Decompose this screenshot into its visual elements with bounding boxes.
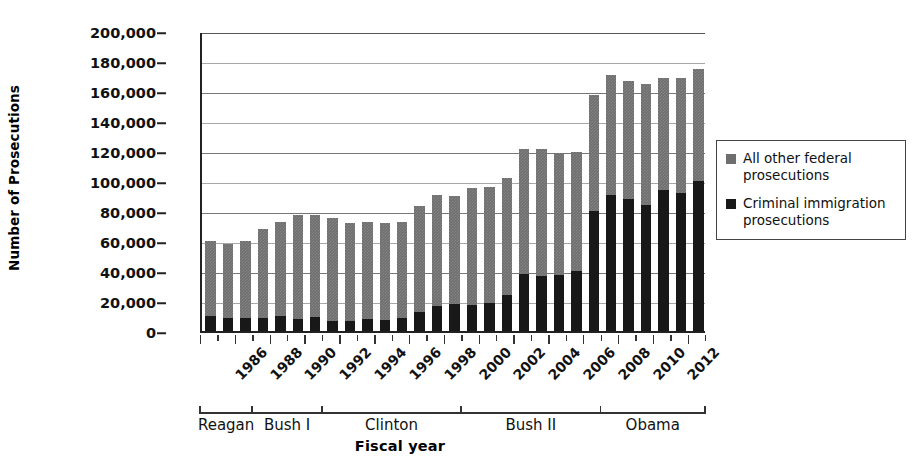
bar-segment-criminal-immigration xyxy=(258,318,268,332)
bar-segment-all-other-federal xyxy=(449,196,459,304)
y-axis-tick-label: 200,000 xyxy=(90,25,156,41)
x-axis-tick-mark xyxy=(374,335,375,344)
x-axis-tick-mark xyxy=(531,335,532,341)
bar-1998 xyxy=(414,206,424,331)
bar-2001 xyxy=(467,188,477,331)
x-axis-tick-label: 1986 xyxy=(232,344,271,383)
x-axis-title: Fiscal year xyxy=(0,438,918,454)
bar-1994 xyxy=(345,223,355,331)
y-axis-tick-labels: 020,00040,00060,00080,000100,000120,0001… xyxy=(26,24,166,344)
bar-2012 xyxy=(658,78,668,331)
bar-1992 xyxy=(310,215,320,331)
president-label-obama: Obama xyxy=(626,416,680,434)
bar-segment-criminal-immigration xyxy=(449,304,459,331)
bar-2002 xyxy=(484,187,494,331)
legend-swatch-black-icon xyxy=(726,199,736,209)
x-axis-tick-mark xyxy=(304,335,305,344)
bar-segment-all-other-federal xyxy=(676,78,686,194)
x-axis-tick-mark xyxy=(409,335,410,344)
x-axis-tick-mark xyxy=(392,335,393,341)
y-axis-tick-mark xyxy=(157,332,166,334)
bar-segment-all-other-federal xyxy=(589,95,599,211)
legend-label: All other federal prosecutions xyxy=(743,150,897,185)
bar-segment-all-other-federal xyxy=(414,206,424,313)
legend: All other federal prosecutions Criminal … xyxy=(716,140,906,240)
x-axis-tick-mark xyxy=(635,335,636,341)
x-axis-tick-mark xyxy=(513,335,514,344)
bar-segment-criminal-immigration xyxy=(484,303,494,331)
x-axis-tick-mark xyxy=(601,335,602,341)
bar-segment-criminal-immigration xyxy=(223,318,233,331)
y-axis-tick-label: 180,000 xyxy=(90,55,156,71)
y-axis-tick-label: 60,000 xyxy=(100,235,156,251)
bar-segment-criminal-immigration xyxy=(397,318,407,331)
president-bracket-line xyxy=(200,412,252,414)
president-bracket-line xyxy=(322,412,461,414)
y-axis-tick-mark xyxy=(157,122,166,124)
president-labels: ReaganBush IClintonBush IIObama xyxy=(150,416,770,438)
bar-2003 xyxy=(502,178,512,331)
x-axis-tick-mark xyxy=(426,335,427,341)
y-axis-tick-label: 80,000 xyxy=(100,205,156,221)
x-axis-tick-label: 1990 xyxy=(301,344,340,383)
legend-label: Criminal immigration prosecutions xyxy=(743,195,897,230)
legend-item-criminal-immigration: Criminal immigration prosecutions xyxy=(726,195,897,230)
x-axis-tick-mark xyxy=(583,335,584,344)
bar-segment-all-other-federal xyxy=(362,222,372,319)
x-axis-tick-label: 2002 xyxy=(510,344,549,383)
bar-1996 xyxy=(380,223,390,331)
y-axis-tick-mark xyxy=(157,62,166,64)
bar-2014 xyxy=(693,69,703,332)
bar-segment-all-other-federal xyxy=(554,153,564,275)
bar-series-group xyxy=(202,33,705,331)
president-bracket-line xyxy=(252,412,322,414)
bar-2005 xyxy=(536,149,546,331)
bar-1988 xyxy=(240,241,250,331)
bar-2004 xyxy=(519,149,529,331)
bar-segment-all-other-federal xyxy=(432,195,442,306)
bar-segment-criminal-immigration xyxy=(536,276,546,332)
bar-segment-criminal-immigration xyxy=(623,199,633,331)
bar-segment-criminal-immigration xyxy=(380,320,390,331)
x-axis-tick-mark xyxy=(200,335,201,344)
x-axis-tick-label: 1992 xyxy=(336,344,375,383)
x-axis-tick-label: 1988 xyxy=(266,344,305,383)
y-axis-tick-mark xyxy=(157,272,166,274)
bar-segment-all-other-federal xyxy=(240,241,250,318)
x-axis-tick-mark xyxy=(566,335,567,341)
legend-item-all-other-federal: All other federal prosecutions xyxy=(726,150,897,185)
y-axis-tick-label: 140,000 xyxy=(90,115,156,131)
bar-segment-all-other-federal xyxy=(502,178,512,295)
bar-1997 xyxy=(397,222,407,332)
bar-1987 xyxy=(223,244,233,331)
bar-2006 xyxy=(554,153,564,332)
x-axis-tick-mark xyxy=(496,335,497,341)
y-axis-tick-label: 160,000 xyxy=(90,85,156,101)
y-axis-title-text: Number of Prosecutions xyxy=(6,85,22,271)
bar-segment-criminal-immigration xyxy=(432,306,442,332)
x-axis-tick-label: 2012 xyxy=(684,344,723,383)
x-axis-tick-mark xyxy=(270,335,271,344)
president-label-reagan: Reagan xyxy=(198,416,254,434)
bar-2000 xyxy=(449,196,459,331)
bar-segment-criminal-immigration xyxy=(519,274,529,331)
bar-segment-all-other-federal xyxy=(345,223,355,321)
bar-1995 xyxy=(362,222,372,331)
x-axis-tick-mark xyxy=(217,335,218,341)
y-axis-tick-mark xyxy=(157,152,166,154)
bar-1986 xyxy=(205,241,215,331)
y-axis-tick-label: 100,000 xyxy=(90,175,156,191)
x-axis-tick-mark xyxy=(322,335,323,341)
x-axis-tick-mark xyxy=(705,335,706,341)
president-bracket-tick xyxy=(321,406,323,414)
y-axis-tick-mark xyxy=(157,32,166,34)
y-axis-tick-mark xyxy=(157,182,166,184)
x-axis-tick-label: 1998 xyxy=(441,344,480,383)
x-axis-tick-mark xyxy=(252,335,253,341)
x-axis-tick-mark xyxy=(235,335,236,344)
bar-segment-criminal-immigration xyxy=(606,195,616,332)
bar-segment-all-other-federal xyxy=(658,78,668,190)
bar-segment-all-other-federal xyxy=(293,215,303,319)
x-axis-tick-mark xyxy=(479,335,480,344)
x-axis-tick-mark xyxy=(444,335,445,344)
